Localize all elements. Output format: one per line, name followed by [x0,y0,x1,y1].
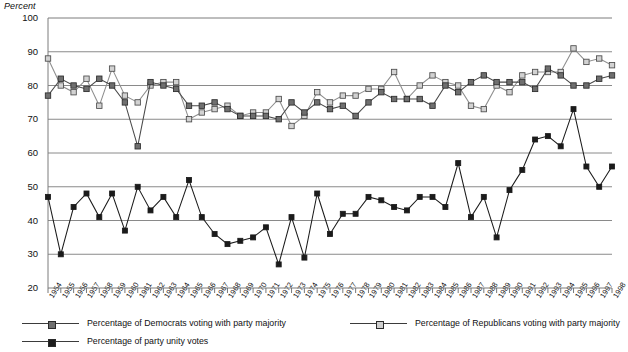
data-point [584,164,589,169]
data-point [456,90,461,95]
data-point [187,178,192,183]
data-point [430,194,435,199]
data-point [507,188,512,193]
data-point [610,164,615,169]
data-point [443,83,448,88]
data-point [328,232,333,237]
data-point [46,194,51,199]
data-point [97,215,102,220]
data-point [456,161,461,166]
data-point [84,86,89,91]
data-point [302,255,307,260]
data-point [609,63,614,68]
data-point [391,96,396,101]
unity-marker-icon [48,339,56,347]
data-point [545,134,550,139]
data-point [71,205,76,210]
data-point [58,83,63,88]
data-point [289,215,294,220]
data-point [545,66,550,71]
legend-item-party-unity[interactable]: Percentage of party unity votes [22,336,208,346]
data-point [199,110,204,115]
data-point [366,194,371,199]
data-point [199,103,204,108]
data-point [353,113,358,118]
data-point [238,238,243,243]
data-point [109,83,114,88]
series-republicans [45,46,614,129]
data-point [58,76,63,81]
data-point [443,205,448,210]
data-point [584,83,589,88]
data-point [263,113,268,118]
data-point [417,96,422,101]
data-point [122,93,127,98]
data-point [597,184,602,189]
gridlines [48,18,612,288]
data-point [84,76,89,81]
data-point [520,73,525,78]
data-point [302,110,307,115]
data-point [250,113,255,118]
data-point [212,232,217,237]
data-point [135,184,140,189]
legend-item-republicans[interactable]: Percentage of Republicans voting with pa… [350,318,620,328]
data-point [494,79,499,84]
data-point [71,83,76,88]
legend-line-republicans [350,323,407,324]
data-point [174,215,179,220]
data-point [148,208,153,213]
data-point [276,262,281,267]
data-point [584,59,589,64]
legend-line-party-unity [22,341,79,342]
x-axis-ticks [48,288,612,293]
data-point [417,83,422,88]
data-point [353,93,358,98]
data-point [161,194,166,199]
data-point [263,225,268,230]
data-point [315,90,320,95]
data-point [84,191,89,196]
data-point [456,83,461,88]
data-point [174,79,179,84]
data-point [404,208,409,213]
data-point [71,90,76,95]
data-point [212,100,217,105]
legend-label-republicans: Percentage of Republicans voting with pa… [415,318,620,328]
data-point [45,93,50,98]
data-point [97,76,102,81]
data-point [507,79,512,84]
data-point [494,235,499,240]
data-point [379,198,384,203]
data-point [186,103,191,108]
data-point [417,194,422,199]
data-point [340,211,345,216]
data-point [532,86,537,91]
data-point [366,100,371,105]
rep-marker-icon [376,321,384,329]
legend-label-democrats: Percentage of Democrats voting with part… [87,318,286,328]
data-point [135,144,140,149]
data-point [392,205,397,210]
data-point [468,103,473,108]
legend-item-democrats[interactable]: Percentage of Democrats voting with part… [22,318,286,328]
dem-marker-icon [48,321,56,329]
data-point [97,103,102,108]
data-point [404,96,409,101]
data-point [340,93,345,98]
data-point [481,194,486,199]
data-point [110,191,115,196]
data-point [468,79,473,84]
data-point [532,69,537,74]
data-point [597,76,602,81]
data-point [276,117,281,122]
data-point [391,69,396,74]
data-point [571,107,576,112]
data-point [315,191,320,196]
data-point [212,106,217,111]
data-point [45,56,50,61]
data-point [327,106,332,111]
data-point [327,100,332,105]
